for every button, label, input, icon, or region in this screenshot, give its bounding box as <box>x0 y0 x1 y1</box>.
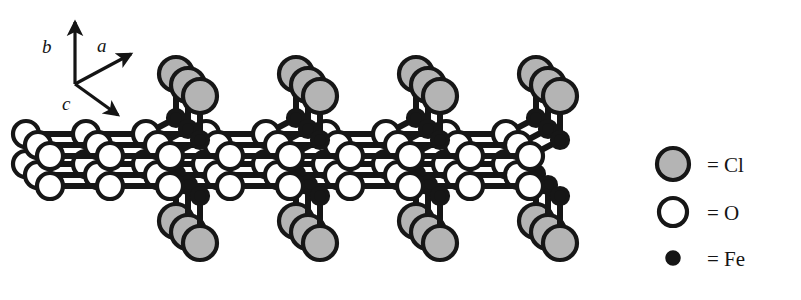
o-atom <box>397 143 423 169</box>
legend-marker-o <box>659 198 687 226</box>
cl-atom <box>303 226 337 260</box>
cl-atom <box>543 79 577 113</box>
fe-atom <box>192 188 208 204</box>
fe-atom <box>432 132 448 148</box>
cl-atom <box>423 226 457 260</box>
fe-atom <box>312 188 328 204</box>
axis-c-label: c <box>62 93 71 114</box>
o-atom <box>97 143 123 169</box>
o-atom <box>457 143 483 169</box>
o-atom <box>337 173 363 199</box>
o-atom <box>517 143 543 169</box>
o-atom <box>157 143 183 169</box>
fe-atom <box>552 132 568 148</box>
figure-canvas: bac = Cl= O= Fe <box>0 0 801 300</box>
o-atom <box>37 173 63 199</box>
o-atom <box>37 143 63 169</box>
cl-atom <box>423 79 457 113</box>
cl-atom <box>183 79 217 113</box>
axis-a-label: a <box>97 35 107 56</box>
o-atom <box>97 173 123 199</box>
o-atom <box>397 173 423 199</box>
o-atom <box>277 143 303 169</box>
legend-label-fe: = Fe <box>707 247 745 271</box>
cl-atom <box>543 226 577 260</box>
o-atom <box>337 143 363 169</box>
legend-label-cl: = Cl <box>707 153 744 177</box>
crystal-structure-figure: bac = Cl= O= Fe <box>0 0 801 300</box>
cl-atom <box>183 226 217 260</box>
o-atom <box>157 173 183 199</box>
o-atom <box>217 143 243 169</box>
legend-marker-cl <box>657 148 689 180</box>
axis-b-label: b <box>42 36 52 57</box>
legend-label-o: = O <box>707 201 739 225</box>
legend-marker-fe <box>666 251 680 265</box>
o-atom <box>277 173 303 199</box>
fe-atom <box>312 132 328 148</box>
o-atom <box>457 173 483 199</box>
fe-atom <box>192 132 208 148</box>
cl-atom <box>303 79 337 113</box>
fe-atom <box>432 188 448 204</box>
o-atom <box>517 173 543 199</box>
o-atom <box>217 173 243 199</box>
fe-atom <box>552 188 568 204</box>
